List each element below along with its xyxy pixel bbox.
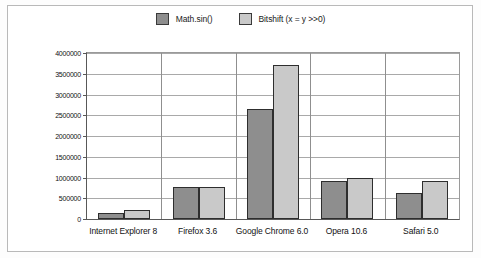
bar-group <box>87 53 161 219</box>
y-tick-label: 4000000 <box>55 50 81 57</box>
bar <box>124 210 150 219</box>
y-tick-label: 0 <box>77 216 81 223</box>
x-tick-label: Opera 10.6 <box>326 226 368 236</box>
x-tick-label: Safari 5.0 <box>403 226 438 236</box>
legend-item-bitshift: Bitshift (x = y >>0) <box>239 13 326 25</box>
legend-swatch-math-sin <box>156 13 169 25</box>
x-tick-label: Internet Explorer 8 <box>89 226 157 236</box>
bar <box>347 178 373 219</box>
plot-area-wrapper: Iterations Per Second 050000010000001500… <box>16 52 464 224</box>
bar-group <box>385 53 459 219</box>
y-tick-label: 500000 <box>59 195 81 202</box>
chart-legend: Math.sin() Bitshift (x = y >>0) <box>0 13 481 25</box>
y-tick-label: 1000000 <box>55 174 81 181</box>
bar <box>173 187 199 219</box>
bar <box>247 109 273 219</box>
bar <box>98 213 124 219</box>
bar <box>396 193 422 219</box>
y-tick-label: 3500000 <box>55 70 81 77</box>
legend-swatch-bitshift <box>239 13 252 25</box>
y-tick-label: 2000000 <box>55 133 81 140</box>
x-axis-ticks: Internet Explorer 8Firefox 3.6Google Chr… <box>86 226 460 242</box>
chart-figure: Math.sin() Bitshift (x = y >>0) Iteratio… <box>0 0 481 258</box>
legend-label-math-sin: Math.sin() <box>176 14 213 24</box>
legend-label-bitshift: Bitshift (x = y >>0) <box>259 14 326 24</box>
plot-area <box>86 52 460 220</box>
y-tick-mark <box>83 219 87 220</box>
y-tick-label: 3000000 <box>55 91 81 98</box>
y-tick-label: 1500000 <box>55 153 81 160</box>
y-axis-ticks: 0500000100000015000002000000250000030000… <box>38 52 84 220</box>
legend-item-math-sin: Math.sin() <box>156 13 213 25</box>
y-tick-label: 2500000 <box>55 112 81 119</box>
bar-group <box>161 53 235 219</box>
bar <box>422 181 448 219</box>
bar <box>199 187 225 219</box>
y-axis-title: Iterations Per Second <box>0 88 1 208</box>
bar-group <box>310 53 384 219</box>
bar <box>273 65 299 219</box>
x-tick-label: Google Chrome 6.0 <box>236 226 308 236</box>
x-tick-label: Firefox 3.6 <box>178 226 217 236</box>
bar-group <box>236 53 310 219</box>
bar <box>321 181 347 219</box>
